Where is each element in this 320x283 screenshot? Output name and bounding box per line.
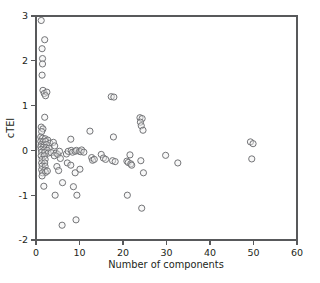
data-point [59,180,65,186]
data-point [44,168,50,174]
data-point [42,37,48,43]
data-point [81,149,87,155]
data-point [68,136,74,142]
data-point [124,192,130,198]
y-tick-label: 2 [22,55,28,66]
x-tick-label: 0 [33,247,39,258]
data-point [70,184,76,190]
x-tick-label: 40 [204,247,216,258]
data-point [163,152,169,158]
data-point [140,127,146,133]
data-point [52,143,58,149]
y-tick-label: -2 [19,234,28,245]
x-tick-label: 20 [117,247,129,258]
data-point [110,134,116,140]
data-point [87,128,93,134]
data-point [57,155,63,161]
data-point [140,170,146,176]
x-tick-label: 30 [160,247,172,258]
data-point [138,158,144,164]
axes-frame [36,16,297,240]
scatter-plot-figure: 0102030405060 -2-10123 Number of compone… [0,0,320,283]
data-point [56,167,62,173]
y-tick-label: 0 [22,145,28,156]
x-tick-label: 10 [73,247,85,258]
data-point [39,72,45,78]
x-tick-label: 60 [291,247,303,258]
y-axis-ticks: -2-10123 [19,10,36,245]
data-point [42,93,48,99]
data-point [139,205,145,211]
data-point [42,114,48,120]
data-point [249,156,255,162]
data-point [39,61,45,67]
plot-frame [36,16,297,240]
y-tick-label: 1 [22,100,28,111]
data-point [250,141,256,147]
data-point [175,160,181,166]
data-point [112,159,118,165]
data-point [56,148,62,154]
x-axis-title: Number of components [108,259,224,270]
data-point [127,152,133,158]
data-point [73,217,79,223]
x-tick-label: 50 [247,247,259,258]
data-point [74,192,80,198]
data-point [38,17,44,23]
y-tick-label: -1 [19,190,28,201]
data-point [77,166,83,172]
data-point [129,162,135,168]
data-point [39,173,45,179]
data-points-layer [38,17,256,228]
data-point [59,222,65,228]
data-point [91,156,97,162]
data-point [68,162,74,168]
y-tick-label: 3 [22,10,28,21]
x-axis-ticks: 0102030405060 [33,240,303,258]
chart-canvas: 0102030405060 -2-10123 Number of compone… [0,0,320,283]
y-axis-title: cTEI [5,118,16,138]
data-point [41,183,47,189]
data-point [39,46,45,52]
data-point [111,94,117,100]
data-point [52,192,58,198]
data-point [103,156,109,162]
